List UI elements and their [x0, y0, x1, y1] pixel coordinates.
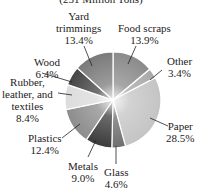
label-text: Food scraps [118, 22, 171, 34]
label-percent: 13.4% [56, 34, 101, 46]
label-text: Other [167, 55, 192, 67]
label-percent: 3.4% [167, 67, 192, 79]
label-text: Yard [56, 10, 101, 22]
label-text: leather, and [2, 88, 53, 100]
label-text: Wood [34, 56, 60, 68]
label-percent: 4.6% [104, 178, 128, 190]
label-percent: 9.0% [68, 172, 98, 184]
label-percent: 28.5% [166, 132, 194, 144]
label-glass: Glass 4.6% [104, 166, 128, 190]
label-text: Metals [68, 160, 98, 172]
label-percent: 13.9% [118, 34, 171, 46]
label-other: Other 3.4% [167, 55, 192, 79]
label-percent: 12.4% [28, 144, 62, 156]
label-text: trimmings [56, 22, 101, 34]
label-text: textiles [2, 100, 53, 112]
label-rubber-leather-textiles: Rubber, leather, and textiles 8.4% [2, 76, 53, 124]
label-paper: Paper 28.5% [166, 120, 194, 144]
label-text: Plastics [28, 132, 62, 144]
label-food-scraps: Food scraps 13.9% [118, 22, 171, 46]
label-text: Rubber, [2, 76, 53, 88]
label-text: Glass [104, 166, 128, 178]
label-text: Paper [166, 120, 194, 132]
label-percent: 8.4% [2, 112, 53, 124]
pie-highlight [65, 52, 161, 148]
label-metals: Metals 9.0% [68, 160, 98, 184]
label-yard-trimmings: Yard trimmings 13.4% [56, 10, 101, 46]
label-plastics: Plastics 12.4% [28, 132, 62, 156]
